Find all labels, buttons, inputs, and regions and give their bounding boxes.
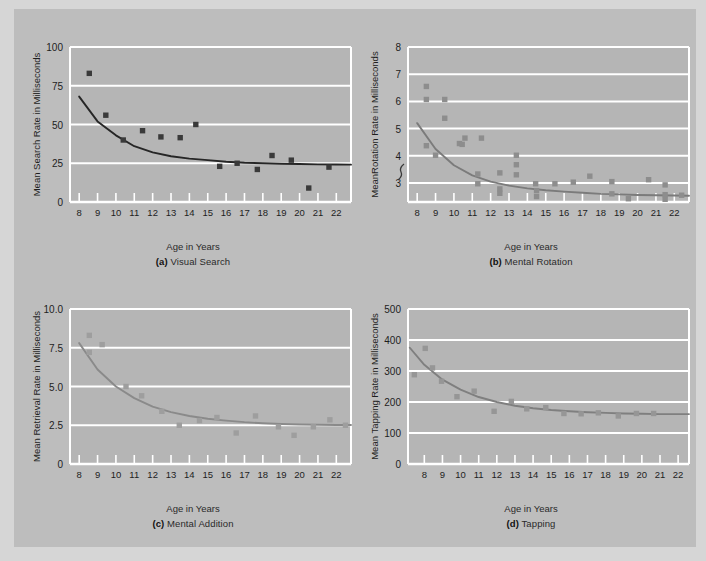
svg-text:21: 21 — [655, 469, 666, 480]
svg-text:0: 0 — [395, 459, 401, 470]
svg-text:11: 11 — [129, 207, 139, 218]
svg-text:8: 8 — [395, 42, 401, 53]
svg-text:12: 12 — [147, 469, 158, 480]
panel-b-caption: (b) Mental Rotation — [366, 256, 696, 267]
svg-text:13: 13 — [510, 469, 521, 480]
svg-text:10: 10 — [111, 207, 122, 218]
panel-c-caption-prefix: (c) — [152, 518, 164, 529]
svg-text:19: 19 — [276, 207, 287, 218]
svg-text:22: 22 — [673, 469, 684, 480]
svg-text:9: 9 — [95, 207, 100, 218]
svg-text:10: 10 — [455, 469, 466, 480]
svg-text:13: 13 — [166, 207, 177, 218]
panel-b-caption-title: Mental Rotation — [505, 256, 573, 267]
svg-text:19: 19 — [618, 469, 629, 480]
svg-text:Mean Tapping Rate in Milliseco: Mean Tapping Rate in Milliseconds — [369, 313, 380, 460]
panel-a-xaxis-title: Age in Years — [28, 241, 358, 252]
panel-c-caption-title: Mental Addition — [167, 518, 233, 529]
svg-text:7.5: 7.5 — [49, 343, 63, 354]
svg-text:500: 500 — [384, 304, 401, 315]
svg-text:5.0: 5.0 — [49, 382, 63, 393]
svg-text:200: 200 — [384, 397, 401, 408]
panel-a-caption-prefix: (a) — [156, 256, 168, 267]
svg-text:17: 17 — [239, 469, 250, 480]
svg-text:9: 9 — [440, 469, 445, 480]
svg-text:17: 17 — [239, 207, 250, 218]
panel-a-visual-search: 02550751008910111213141516171819202122Me… — [28, 27, 358, 242]
panel-b-caption-prefix: (b) — [489, 256, 501, 267]
figure-container: 02550751008910111213141516171819202122Me… — [0, 0, 706, 561]
svg-text:16: 16 — [559, 207, 570, 218]
svg-text:Mean Search Rate in Millisecon: Mean Search Rate in Milliseconds — [31, 52, 42, 196]
svg-text:9: 9 — [433, 207, 438, 218]
svg-text:8: 8 — [415, 207, 420, 218]
svg-text:17: 17 — [577, 207, 588, 218]
svg-text:20: 20 — [294, 469, 305, 480]
panel-d-caption: (d) Tapping — [366, 518, 696, 529]
svg-text:11: 11 — [467, 207, 477, 218]
svg-text:15: 15 — [540, 207, 551, 218]
svg-text:100: 100 — [46, 42, 63, 53]
svg-text:18: 18 — [258, 207, 269, 218]
panel-d-plot: 0100200300400500891011121314151617181920… — [366, 289, 696, 504]
svg-text:12: 12 — [485, 207, 496, 218]
svg-text:0: 0 — [57, 459, 63, 470]
panel-a-caption-title: Visual Search — [170, 256, 230, 267]
svg-text:8: 8 — [77, 207, 82, 218]
svg-text:12: 12 — [492, 469, 503, 480]
svg-text:16: 16 — [564, 469, 575, 480]
svg-text:75: 75 — [52, 81, 64, 92]
svg-text:17: 17 — [582, 469, 593, 480]
svg-text:18: 18 — [596, 207, 607, 218]
panel-c-mental-addition: 02.55.07.510.089101112131415161718192021… — [28, 289, 358, 504]
svg-text:15: 15 — [202, 469, 213, 480]
svg-text:20: 20 — [294, 207, 305, 218]
svg-text:18: 18 — [258, 469, 269, 480]
svg-text:19: 19 — [614, 207, 625, 218]
svg-text:13: 13 — [504, 207, 515, 218]
panel-c-caption: (c) Mental Addition — [28, 518, 358, 529]
panel-c-xaxis-title: Age in Years — [28, 503, 358, 514]
svg-text:14: 14 — [184, 207, 195, 218]
svg-text:16: 16 — [221, 469, 232, 480]
svg-text:8: 8 — [77, 469, 82, 480]
svg-text:8: 8 — [422, 469, 427, 480]
panel-d-xaxis-title: Age in Years — [366, 503, 696, 514]
svg-text:20: 20 — [637, 469, 648, 480]
panel-d-caption-prefix: (d) — [507, 518, 519, 529]
panel-b-plot: 3456788910111213141516171819202122MeanRo… — [366, 27, 696, 242]
svg-text:14: 14 — [522, 207, 533, 218]
panel-b-mental-rotation: 3456788910111213141516171819202122MeanRo… — [366, 27, 696, 242]
svg-text:11: 11 — [129, 469, 139, 480]
svg-text:19: 19 — [276, 469, 287, 480]
svg-text:Mean Retrieval Rate in Millise: Mean Retrieval Rate in Milliseconds — [31, 311, 42, 462]
panel-a-caption: (a) Visual Search — [28, 256, 358, 267]
svg-text:22: 22 — [331, 469, 342, 480]
svg-text:6: 6 — [395, 96, 401, 107]
svg-text:22: 22 — [669, 207, 680, 218]
panel-c-plot: 02.55.07.510.089101112131415161718192021… — [28, 289, 358, 504]
svg-text:10: 10 — [111, 469, 122, 480]
panel-b-xaxis-title: Age in Years — [366, 241, 696, 252]
svg-text:2.5: 2.5 — [49, 420, 63, 431]
panel-d-tapping: 0100200300400500891011121314151617181920… — [366, 289, 696, 504]
svg-text:10.0: 10.0 — [44, 304, 64, 315]
svg-text:4: 4 — [395, 151, 401, 162]
svg-text:15: 15 — [202, 207, 213, 218]
svg-text:100: 100 — [384, 428, 401, 439]
svg-text:14: 14 — [184, 469, 195, 480]
svg-text:18: 18 — [600, 469, 611, 480]
svg-text:0: 0 — [57, 197, 63, 208]
svg-text:14: 14 — [528, 469, 539, 480]
svg-text:9: 9 — [95, 469, 100, 480]
svg-text:21: 21 — [313, 469, 324, 480]
figure-inner: 02550751008910111213141516171819202122Me… — [14, 9, 696, 547]
svg-text:16: 16 — [221, 207, 232, 218]
panel-a-plot: 02550751008910111213141516171819202122Me… — [28, 27, 358, 242]
svg-text:22: 22 — [331, 207, 342, 218]
svg-text:10: 10 — [449, 207, 460, 218]
svg-text:300: 300 — [384, 366, 401, 377]
svg-text:15: 15 — [546, 469, 557, 480]
svg-text:13: 13 — [166, 469, 177, 480]
svg-text:12: 12 — [147, 207, 158, 218]
